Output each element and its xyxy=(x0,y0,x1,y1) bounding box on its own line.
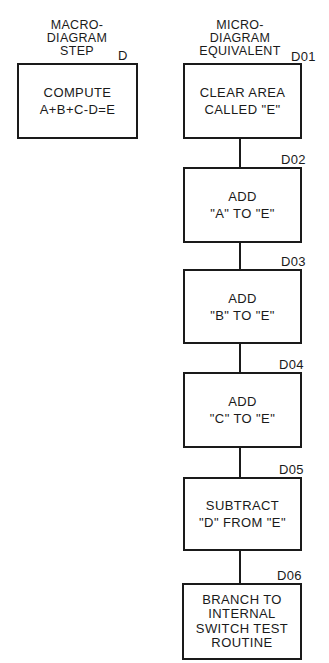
macro-header-line: STEP xyxy=(27,45,127,58)
box-line: ADD xyxy=(228,188,257,205)
box-line: BRANCH TO xyxy=(202,593,282,608)
micro-step-id: D05 xyxy=(279,463,304,476)
micro-step-id: D06 xyxy=(277,569,302,582)
macro-header: MACRO- DIAGRAM STEP xyxy=(27,19,127,58)
box-line: ROUTINE xyxy=(211,636,272,651)
micro-step-id: D02 xyxy=(281,153,306,166)
connector-line xyxy=(239,242,241,269)
box-line: SWITCH TEST xyxy=(196,622,288,637)
box-line: CLEAR AREA xyxy=(200,84,286,101)
connector-line xyxy=(239,343,241,372)
box-line: COMPUTE xyxy=(44,84,112,101)
box-line: "D" FROM "E" xyxy=(199,514,286,531)
box-line: A+B+C-D=E xyxy=(40,101,116,118)
box-line: "B" TO "E" xyxy=(210,307,275,324)
micro-step-box: ADD "C" TO "E" xyxy=(183,372,302,448)
micro-header-line: EQUIVALENT xyxy=(190,45,290,58)
connector-line xyxy=(239,139,241,167)
macro-step-box: COMPUTE A+B+C-D=E xyxy=(17,63,138,139)
micro-step-box: ADD "A" TO "E" xyxy=(183,167,302,243)
micro-step-box: ADD "B" TO "E" xyxy=(183,269,302,344)
micro-step-id: D03 xyxy=(281,255,306,268)
connector-line xyxy=(239,550,241,583)
micro-step-id: D04 xyxy=(279,358,304,371)
box-line: ADD xyxy=(228,393,257,410)
micro-step-box: CLEAR AREA CALLED "E" xyxy=(183,63,302,139)
box-line: "A" TO "E" xyxy=(210,205,275,222)
box-line: "C" TO "E" xyxy=(210,410,275,427)
micro-step-id: D01 xyxy=(291,50,316,63)
box-line: INTERNAL xyxy=(208,607,276,622)
micro-step-box: BRANCH TO INTERNAL SWITCH TEST ROUTINE xyxy=(182,583,302,660)
micro-header: MICRO- DIAGRAM EQUIVALENT xyxy=(190,19,290,58)
box-line: ADD xyxy=(228,290,257,307)
box-line: SUBTRACT xyxy=(206,497,279,514)
box-line: CALLED "E" xyxy=(204,101,280,118)
connector-line xyxy=(239,447,241,477)
micro-step-box: SUBTRACT "D" FROM "E" xyxy=(183,477,302,551)
macro-step-id: D xyxy=(118,49,128,62)
